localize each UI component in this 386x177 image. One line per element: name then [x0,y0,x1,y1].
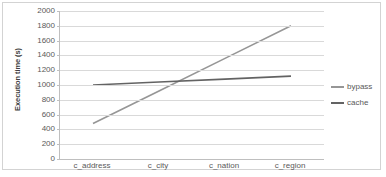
y-tick-label: 1000 [21,81,55,89]
y-tick-label: 200 [21,140,55,148]
x-axis-tick-labels: c_addressc_cityc_nationc_region [59,161,323,175]
y-tick-mark [57,41,60,42]
y-tick-label: 400 [21,125,55,133]
y-tick-mark [57,115,60,116]
y-tick-mark [57,144,60,145]
legend-item-cache[interactable]: cache [331,96,386,109]
legend-swatch-icon [331,102,344,104]
chart-frame: Execution time (s) 200018001600140012001… [2,2,381,170]
gridline [60,55,324,56]
gridline [60,129,324,130]
gridline [60,159,324,160]
gridline [60,70,324,71]
y-tick-mark [57,26,60,27]
y-tick-label: 1800 [21,22,55,30]
legend-label: cache [347,98,368,107]
gridline [60,41,324,42]
plot-area [59,11,323,159]
chart-legend: bypasscache [331,80,386,112]
gridline [60,26,324,27]
y-tick-mark [57,70,60,71]
y-tick-label: 2000 [21,7,55,15]
y-tick-mark [57,159,60,160]
y-tick-label: 1200 [21,66,55,74]
y-tick-label: 800 [21,96,55,104]
y-tick-mark [57,85,60,86]
y-tick-label: 1600 [21,37,55,45]
y-tick-label: 0 [21,155,55,163]
gridline [60,115,324,116]
gridline [60,11,324,12]
legend-swatch-icon [331,86,344,88]
x-tick-label: c_region [250,161,330,170]
y-axis-tick-labels: 2000180016001400120010008006004002000 [21,11,55,159]
gridline [60,100,324,101]
y-tick-mark [57,100,60,101]
y-tick-mark [57,55,60,56]
gridline [60,85,324,86]
series-line-cache [93,76,291,85]
gridline [60,144,324,145]
y-tick-label: 1400 [21,51,55,59]
legend-label: bypass [347,82,372,91]
y-tick-label: 600 [21,111,55,119]
y-tick-mark [57,11,60,12]
legend-item-bypass[interactable]: bypass [331,80,386,93]
y-tick-mark [57,129,60,130]
